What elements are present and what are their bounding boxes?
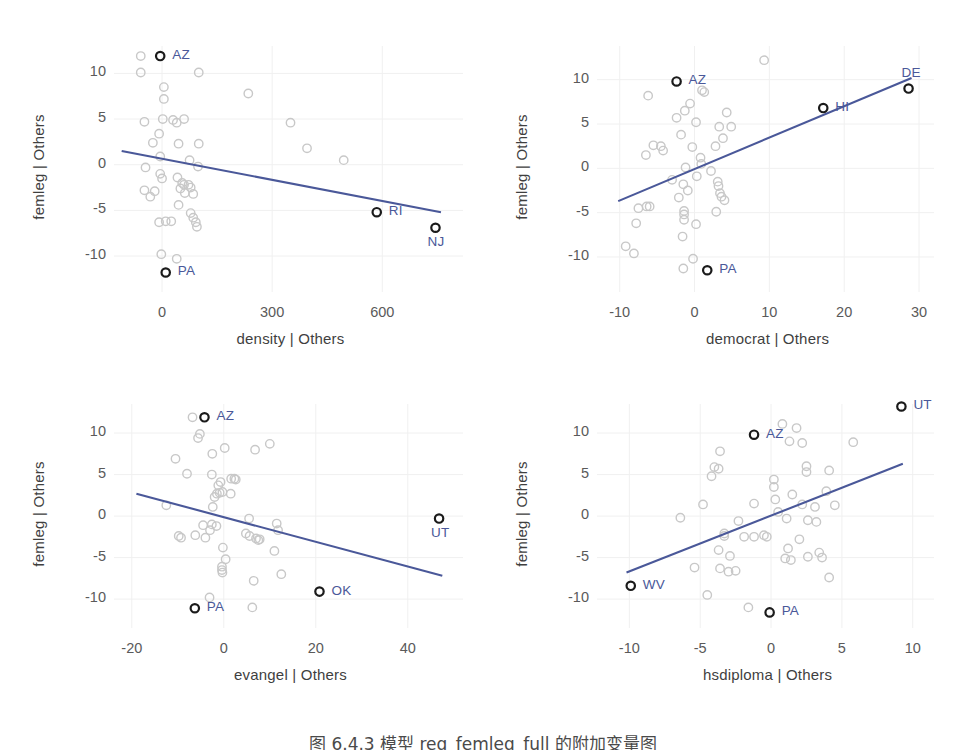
point-label-ut: UT	[913, 397, 931, 412]
x-axis-label: democrat | Others	[601, 330, 934, 347]
panel-top-right: AZDEHIPA-10-50510-100102030democrat | Ot…	[483, 0, 966, 370]
point-label-pa: PA	[178, 263, 195, 278]
highlighted-point-nj	[431, 224, 439, 232]
point-label-ut: UT	[431, 525, 449, 540]
data-point	[700, 88, 708, 96]
highlighted-point-hi	[819, 104, 827, 112]
x-tick-label: 600	[352, 304, 412, 320]
highlighted-point-pa	[191, 604, 199, 612]
data-point	[303, 144, 311, 152]
y-tick-label: -10	[549, 589, 589, 605]
data-point	[831, 501, 839, 509]
data-point	[677, 130, 685, 138]
y-tick-label: -10	[549, 247, 589, 263]
data-point	[676, 514, 684, 522]
data-point	[678, 232, 686, 240]
data-point	[286, 119, 294, 127]
highlighted-point-de	[904, 84, 912, 92]
x-tick-label: 20	[286, 640, 346, 656]
data-point	[692, 220, 700, 228]
data-point	[644, 91, 652, 99]
data-point	[173, 173, 181, 181]
point-label-pa: PA	[782, 603, 799, 618]
point-label-hi: HI	[835, 99, 849, 114]
point-label-pa: PA	[719, 261, 736, 276]
y-tick-label: -10	[66, 246, 106, 262]
data-point	[672, 114, 680, 122]
regression-line	[627, 464, 903, 573]
highlighted-point-ok	[315, 587, 323, 595]
data-point	[174, 140, 182, 148]
data-point	[681, 107, 689, 115]
data-point	[642, 151, 650, 159]
data-point	[137, 52, 145, 60]
data-point	[630, 249, 638, 257]
gridlines	[114, 404, 463, 628]
data-point	[195, 140, 203, 148]
data-point	[137, 68, 145, 76]
data-point	[788, 490, 796, 498]
data-point	[804, 553, 812, 561]
data-point	[714, 546, 722, 554]
panel-top-left: AZRINJPA-10-505100300600density | Others…	[0, 0, 483, 370]
data-point	[244, 89, 252, 97]
point-label-nj: NJ	[427, 234, 444, 249]
highlighted-point-pa	[162, 268, 170, 276]
data-point	[804, 516, 812, 524]
x-tick-label: -20	[102, 640, 162, 656]
data-point	[250, 577, 258, 585]
data-point	[771, 495, 779, 503]
y-tick-label: 10	[549, 70, 589, 86]
x-axis-label: density | Others	[118, 330, 463, 347]
data-point	[785, 437, 793, 445]
data-point	[160, 95, 168, 103]
data-point	[632, 219, 640, 227]
data-point	[798, 439, 806, 447]
data-point	[195, 68, 203, 76]
data-point	[784, 544, 792, 552]
point-label-wv: WV	[643, 577, 665, 592]
data-point	[693, 172, 701, 180]
data-point	[692, 118, 700, 126]
y-tick-label: 10	[549, 423, 589, 439]
data-point	[679, 264, 687, 272]
data-point	[149, 139, 157, 147]
data-point	[734, 517, 742, 525]
y-tick-label: 0	[66, 155, 106, 171]
y-tick-label: 5	[66, 109, 106, 125]
data-point	[690, 563, 698, 571]
data-point	[201, 533, 209, 541]
data-point	[277, 570, 285, 578]
data-point	[688, 143, 696, 151]
data-point	[781, 554, 789, 562]
data-point	[266, 440, 274, 448]
data-point	[208, 450, 216, 458]
x-tick-label: 20	[814, 304, 874, 320]
y-tick-label: 10	[66, 423, 106, 439]
y-axis-label: femleg | Others	[513, 114, 530, 219]
panel-bottom-right: UTAZWVPA-10-50510-10-50510hsdiploma | Ot…	[483, 370, 966, 710]
y-tick-label: 5	[549, 465, 589, 481]
data-point	[723, 108, 731, 116]
panel-bottom-left: AZUTOKPA-10-50510-2002040evangel | Other…	[0, 370, 483, 710]
data-point	[726, 552, 734, 560]
data-point	[689, 255, 697, 263]
data-point	[711, 142, 719, 150]
data-point	[795, 535, 803, 543]
x-tick-label: 0	[132, 304, 192, 320]
x-tick-label: 40	[378, 640, 438, 656]
regression-line	[618, 78, 911, 201]
highlighted-point-wv	[627, 582, 635, 590]
x-tick-label: 0	[194, 640, 254, 656]
point-label-ri: RI	[389, 203, 403, 218]
gridlines	[597, 46, 934, 292]
y-tick-label: 0	[549, 506, 589, 522]
y-tick-label: -5	[66, 200, 106, 216]
data-point	[270, 547, 278, 555]
y-tick-label: -5	[549, 548, 589, 564]
data-point	[680, 216, 688, 224]
data-point	[146, 192, 154, 200]
data-point	[792, 424, 800, 432]
point-label-az: AZ	[689, 72, 707, 87]
x-tick-label: -10	[590, 304, 650, 320]
